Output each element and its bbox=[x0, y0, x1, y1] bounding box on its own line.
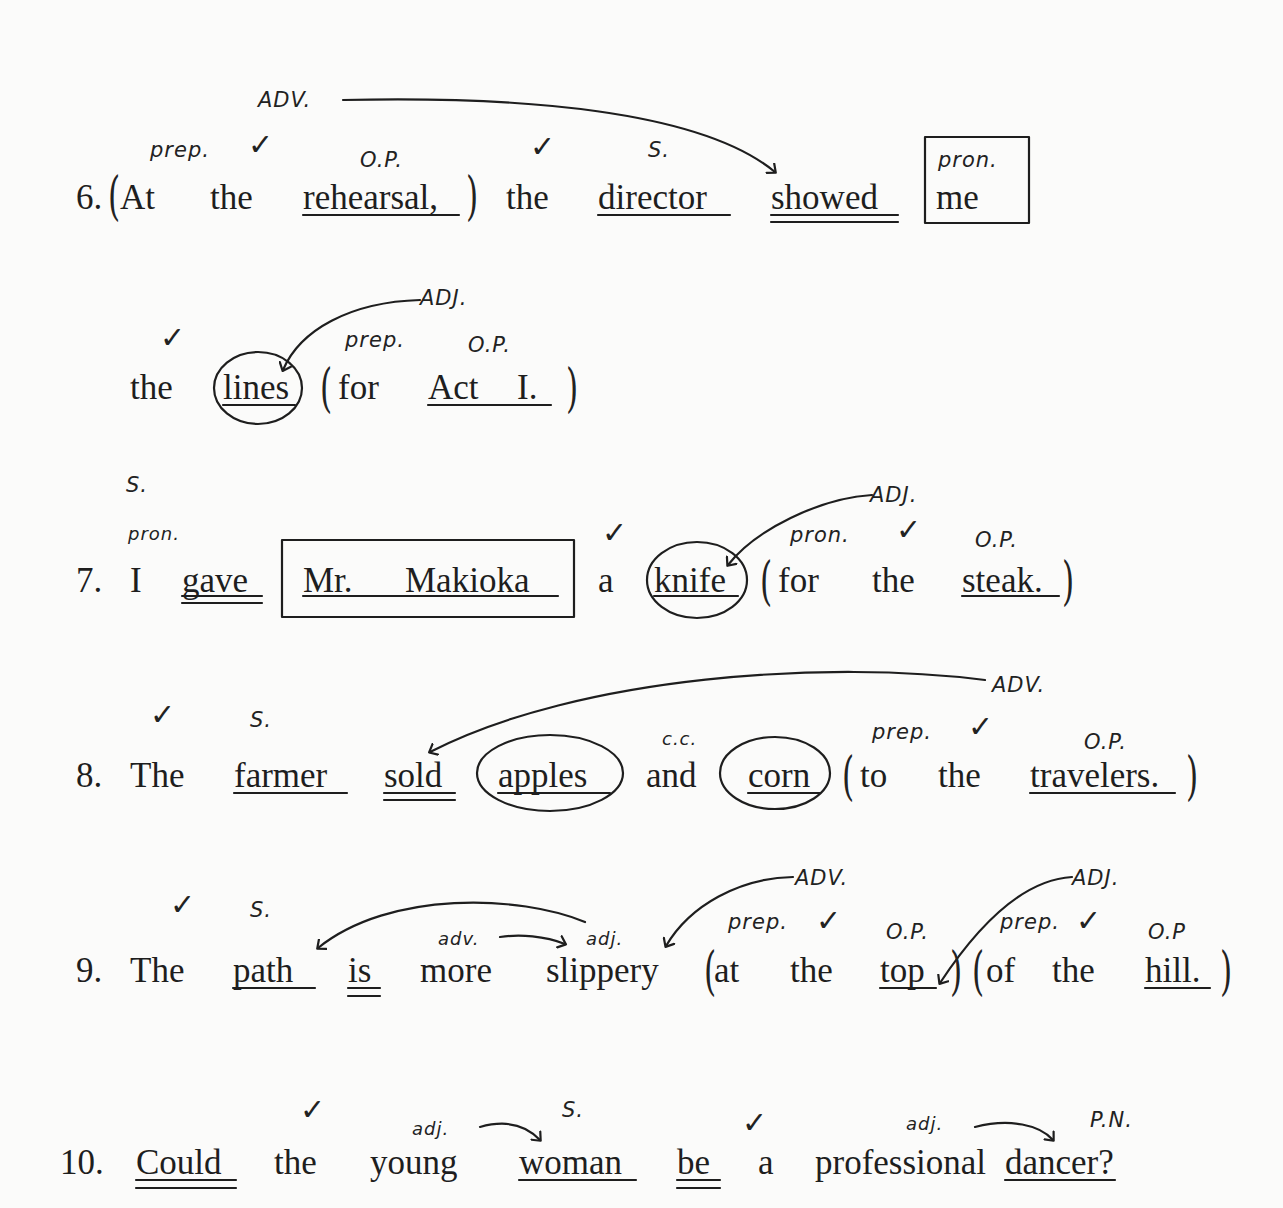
word: for bbox=[338, 370, 379, 405]
word: slippery bbox=[546, 953, 659, 988]
arrow-adj-to-dancer bbox=[975, 1123, 1053, 1140]
word: showed bbox=[771, 180, 878, 215]
check-mark: ✓ bbox=[160, 323, 185, 353]
word: top bbox=[880, 953, 925, 988]
annotation-pn: P.N. bbox=[1090, 1110, 1133, 1131]
annotation-pron: pron. bbox=[128, 525, 180, 543]
word: professional bbox=[815, 1145, 986, 1180]
word: director bbox=[598, 180, 707, 215]
word: to bbox=[860, 758, 887, 793]
word: dancer? bbox=[1005, 1145, 1114, 1180]
annotation-adj: ADJ. bbox=[870, 485, 917, 506]
check-mark: ✓ bbox=[248, 130, 273, 160]
annotation-adj: ADJ. bbox=[1072, 868, 1119, 889]
annotation-op: O.P. bbox=[1084, 732, 1127, 753]
check-mark: ✓ bbox=[150, 700, 175, 730]
word: me bbox=[936, 180, 979, 215]
word: the bbox=[872, 563, 915, 598]
sentence-number: 8. bbox=[76, 758, 102, 793]
annotation-op: O.P. bbox=[468, 335, 511, 356]
word: I. bbox=[517, 370, 537, 405]
annotation-prep: prep. bbox=[728, 912, 788, 933]
word: travelers. bbox=[1030, 758, 1159, 793]
annotation-adv: ADV. bbox=[992, 675, 1045, 696]
word: at bbox=[714, 953, 739, 988]
close-paren: ) bbox=[466, 170, 478, 222]
word: The bbox=[130, 953, 184, 988]
annotation-pron: pron. bbox=[790, 525, 850, 546]
annotation-cc: c.c. bbox=[662, 730, 697, 748]
word: be bbox=[677, 1145, 710, 1180]
word: woman bbox=[519, 1145, 622, 1180]
word: gave bbox=[182, 563, 248, 598]
word: a bbox=[758, 1145, 774, 1180]
open-paren: ( bbox=[108, 170, 120, 222]
annotation-adv: ADV. bbox=[258, 90, 311, 111]
annotation-op: O.P bbox=[1148, 922, 1186, 943]
close-paren: ) bbox=[1186, 750, 1198, 802]
word: young bbox=[370, 1145, 458, 1180]
annotation-subject: S. bbox=[126, 475, 148, 496]
annotation-adj: adj. bbox=[906, 1115, 943, 1133]
annotation-adv: ADV. bbox=[795, 868, 848, 889]
annotation-subject: S. bbox=[250, 710, 272, 731]
word: farmer bbox=[234, 758, 327, 793]
word: lines bbox=[223, 370, 289, 405]
word: Mr. bbox=[303, 563, 353, 598]
word: the bbox=[274, 1145, 317, 1180]
word: the bbox=[790, 953, 833, 988]
open-paren: ( bbox=[760, 555, 772, 607]
annotation-adv-small: adv. bbox=[438, 930, 479, 948]
open-paren: ( bbox=[972, 945, 984, 997]
word: I bbox=[130, 563, 142, 598]
word: the bbox=[210, 180, 253, 215]
annotation-prep: prep. bbox=[150, 140, 210, 161]
word: steak. bbox=[962, 563, 1043, 598]
annotation-op: O.P. bbox=[975, 530, 1018, 551]
annotation-adj-small: adj. bbox=[586, 930, 623, 948]
word: the bbox=[130, 370, 173, 405]
close-paren: ) bbox=[950, 945, 962, 997]
arrow-adv-to-adj bbox=[500, 936, 565, 944]
arrow-adv-6 bbox=[343, 99, 775, 172]
check-mark: ✓ bbox=[968, 712, 993, 742]
word: the bbox=[506, 180, 549, 215]
open-paren: ( bbox=[842, 750, 854, 802]
word: Act bbox=[428, 370, 479, 405]
word: a bbox=[598, 563, 614, 598]
arrow-adj-to-woman bbox=[480, 1124, 540, 1140]
word: the bbox=[1052, 953, 1095, 988]
check-mark: ✓ bbox=[300, 1095, 325, 1125]
word: Could bbox=[136, 1145, 222, 1180]
check-mark: ✓ bbox=[530, 132, 555, 162]
word: The bbox=[130, 758, 184, 793]
annotation-adj: adj. bbox=[412, 1120, 449, 1138]
word: At bbox=[120, 180, 155, 215]
word: corn bbox=[748, 758, 810, 793]
annotation-prep: prep. bbox=[345, 330, 405, 351]
word: and bbox=[646, 758, 697, 793]
close-paren: ) bbox=[1062, 555, 1074, 607]
annotation-subject: S. bbox=[250, 900, 272, 921]
open-paren: ( bbox=[320, 362, 332, 414]
check-mark: ✓ bbox=[1076, 906, 1101, 936]
annotation-subject: S. bbox=[562, 1100, 584, 1121]
annotation-op: O.P. bbox=[886, 922, 929, 943]
word: the bbox=[938, 758, 981, 793]
sentence-number: 10. bbox=[60, 1145, 104, 1180]
check-mark: ✓ bbox=[816, 906, 841, 936]
word: rehearsal, bbox=[303, 180, 438, 215]
annotation-subject: S. bbox=[648, 140, 670, 161]
word: hill. bbox=[1145, 953, 1200, 988]
sentence-number: 9. bbox=[76, 953, 102, 988]
annotation-pron: pron. bbox=[938, 150, 998, 171]
word: path bbox=[233, 953, 293, 988]
check-mark: ✓ bbox=[602, 518, 627, 548]
word: for bbox=[778, 563, 819, 598]
close-paren: ) bbox=[566, 362, 578, 414]
word: more bbox=[420, 953, 492, 988]
word: is bbox=[348, 953, 371, 988]
annotation-op: O.P. bbox=[360, 150, 403, 171]
check-mark: ✓ bbox=[170, 890, 195, 920]
close-paren: ) bbox=[1220, 945, 1232, 997]
